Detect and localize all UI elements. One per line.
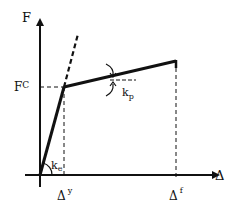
plastic-branch — [64, 61, 176, 87]
fc-label: FC — [14, 80, 29, 94]
kp-angle-arrow-bottom — [106, 84, 113, 96]
kp-label: kp — [122, 86, 134, 101]
x-axis-label: Δ — [215, 168, 224, 183]
df-label: Δf — [169, 186, 184, 203]
ke-label: ke — [51, 159, 63, 173]
force-displacement-diagram: F Δ FC Δy Δf ke kp — [0, 0, 229, 218]
y-axis-label: F — [22, 10, 31, 25]
elastic-extension-dashed — [64, 34, 78, 87]
dy-label: Δy — [57, 186, 73, 203]
